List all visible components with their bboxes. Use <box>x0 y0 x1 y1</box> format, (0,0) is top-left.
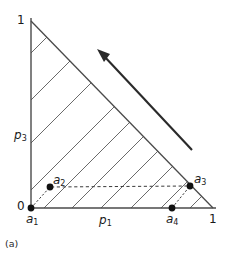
y-axis-label-base: p <box>14 128 22 142</box>
point-a4 <box>169 205 176 212</box>
panel-label: (a) <box>5 239 18 249</box>
point-a1 <box>28 205 35 212</box>
point-a3 <box>187 183 194 190</box>
hatch-line <box>31 0 231 190</box>
x-axis-tick-right: 1 <box>209 213 217 225</box>
origin-tick: 0 <box>17 200 25 212</box>
point-label-a4-sub: 4 <box>173 218 178 227</box>
hatch-line <box>131 0 231 208</box>
x-axis-label-sub: 1 <box>107 219 112 228</box>
x-axis-label: p1 <box>99 214 112 226</box>
direction-arrow-shaft <box>104 56 192 150</box>
point-label-a3-sub: 3 <box>201 178 206 187</box>
point-label-a2: a2 <box>53 174 65 186</box>
dashed-a2-a3 <box>51 186 189 187</box>
x-axis-label-base: p <box>99 213 107 227</box>
y-axis-label: p3 <box>14 129 27 141</box>
figure-container: 1 0 1 p3 p1 a1 a2 a3 a4 (a) <box>0 0 231 260</box>
hatch-line <box>72 0 231 208</box>
hatch-line <box>31 0 231 143</box>
hatch-line <box>101 0 231 208</box>
point-label-a4: a4 <box>166 213 178 225</box>
point-label-a1: a1 <box>26 213 38 225</box>
point-label-a3: a3 <box>194 173 206 185</box>
y-axis-label-sub: 3 <box>22 134 27 143</box>
dashed-a4-a3 <box>172 186 190 208</box>
y-axis-tick-top: 1 <box>17 14 25 26</box>
point-label-a2-sub: 2 <box>60 179 65 188</box>
point-label-a1-sub: 1 <box>33 218 38 227</box>
hatch-line <box>31 0 231 53</box>
